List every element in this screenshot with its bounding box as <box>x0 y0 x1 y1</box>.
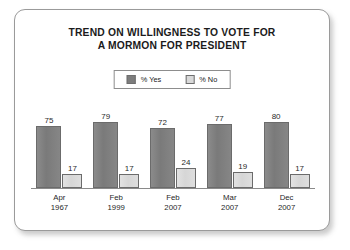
bar-value: 17 <box>68 164 77 173</box>
bar-value: 80 <box>272 112 281 121</box>
category-label: Feb 2007 <box>145 190 202 218</box>
category-year: 2007 <box>201 203 258 213</box>
bar-group: 75 17 <box>31 106 88 188</box>
category-label: Dec 2007 <box>258 190 315 218</box>
dark-gray-swatch-icon <box>127 75 136 84</box>
category-year: 1999 <box>88 203 145 213</box>
legend-label-no: % No <box>199 75 217 84</box>
bar-wrap-yes: 77 <box>207 106 232 188</box>
category-month: Feb <box>88 193 145 203</box>
category-label: Apr 1967 <box>31 190 88 218</box>
category-labels: Apr 1967 Feb 1999 Feb 2007 Mar 2007 Dec … <box>31 190 315 218</box>
legend-item-yes: % Yes <box>127 75 162 84</box>
chart-card: TREND ON WILLINGNESS TO VOTE FOR A MORMO… <box>14 9 330 231</box>
category-month: Mar <box>201 193 258 203</box>
legend-label-yes: % Yes <box>141 75 162 84</box>
bar-wrap-no: 24 <box>176 106 196 188</box>
light-gray-swatch-icon <box>185 75 194 84</box>
bar-group: 77 19 <box>201 106 258 188</box>
x-axis-line <box>31 188 315 189</box>
bar-value: 17 <box>295 164 304 173</box>
bar-wrap-no: 17 <box>119 106 139 188</box>
legend-item-no: % No <box>185 75 217 84</box>
plot-area: 75 17 79 17 72 <box>31 106 315 218</box>
category-month: Feb <box>145 193 202 203</box>
bar-value: 75 <box>44 116 53 125</box>
chart-title-line-1: TREND ON WILLINGNESS TO VOTE FOR <box>15 26 329 39</box>
category-label: Feb 1999 <box>88 190 145 218</box>
bar-value: 24 <box>182 158 191 167</box>
bar-value: 79 <box>101 112 110 121</box>
bar-no <box>62 174 82 188</box>
bar-wrap-no: 17 <box>62 106 82 188</box>
category-year: 2007 <box>145 203 202 213</box>
bar-value: 19 <box>238 162 247 171</box>
bar-yes <box>264 122 289 188</box>
category-month: Dec <box>258 193 315 203</box>
bar-wrap-no: 19 <box>233 106 253 188</box>
bar-yes <box>36 126 61 188</box>
chart-title: TREND ON WILLINGNESS TO VOTE FOR A MORMO… <box>15 26 329 52</box>
chart-title-line-2: A MORMON FOR PRESIDENT <box>15 39 329 52</box>
bar-group: 79 17 <box>88 106 145 188</box>
bar-no <box>290 174 310 188</box>
bar-no <box>119 174 139 188</box>
bar-yes <box>207 124 232 188</box>
bar-value: 17 <box>125 164 134 173</box>
bar-no <box>176 168 196 188</box>
category-label: Mar 2007 <box>201 190 258 218</box>
bar-group: 72 24 <box>145 106 202 188</box>
bar-wrap-no: 17 <box>290 106 310 188</box>
bar-wrap-yes: 79 <box>93 106 118 188</box>
bar-wrap-yes: 75 <box>36 106 61 188</box>
category-month: Apr <box>31 193 88 203</box>
bar-yes <box>93 122 118 188</box>
category-year: 1967 <box>31 203 88 213</box>
bar-value: 77 <box>215 114 224 123</box>
category-year: 2007 <box>258 203 315 213</box>
bar-yes <box>150 128 175 188</box>
bar-groups: 75 17 79 17 72 <box>31 106 315 188</box>
bar-wrap-yes: 72 <box>150 106 175 188</box>
bar-value: 72 <box>158 118 167 127</box>
bar-no <box>233 172 253 188</box>
chart-legend: % Yes % No <box>114 70 231 89</box>
bar-group: 80 17 <box>258 106 315 188</box>
bar-wrap-yes: 80 <box>264 106 289 188</box>
